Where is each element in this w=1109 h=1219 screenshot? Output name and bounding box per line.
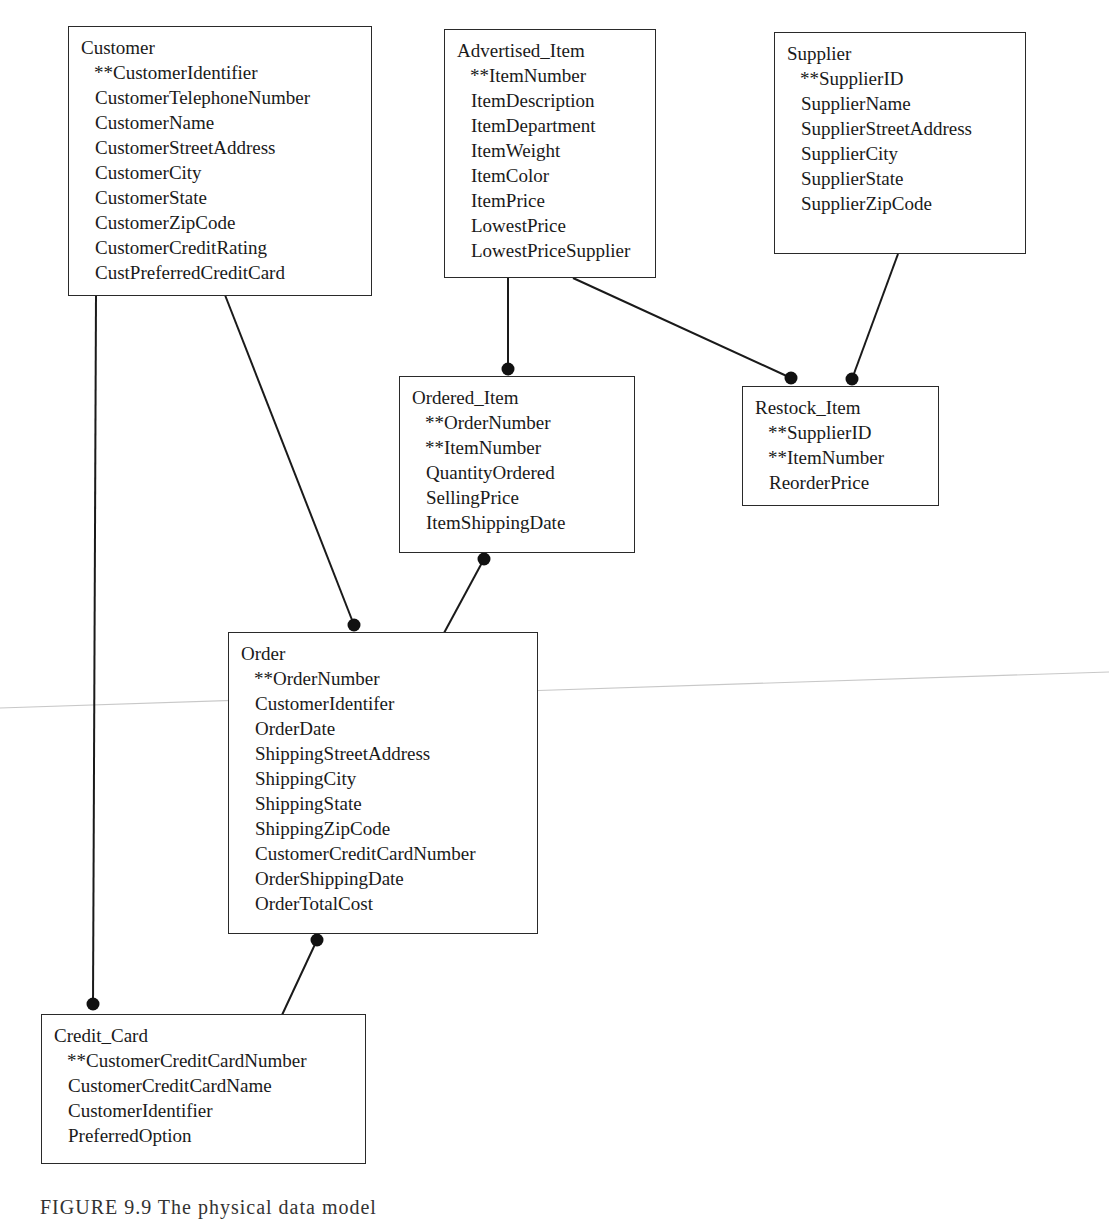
attribute: OrderDate bbox=[241, 716, 525, 741]
entity-supplier: Supplier **SupplierID SupplierName Suppl… bbox=[774, 32, 1026, 254]
attribute: ItemWeight bbox=[457, 138, 643, 163]
attribute: SellingPrice bbox=[412, 485, 622, 510]
many-dot-icon bbox=[478, 553, 491, 566]
entity-title: Advertised_Item bbox=[457, 38, 643, 63]
primary-key-attribute: **SupplierID bbox=[787, 66, 1013, 91]
attribute: CustomerStreetAddress bbox=[81, 135, 359, 160]
entity-advertised-item: Advertised_Item **ItemNumber ItemDescrip… bbox=[444, 29, 656, 278]
entity-title: Customer bbox=[81, 35, 359, 60]
attribute: CustomerIdentifier bbox=[54, 1098, 353, 1123]
rel-advertised-restock-item bbox=[573, 278, 798, 385]
attribute: ShippingStreetAddress bbox=[241, 741, 525, 766]
attribute: PreferredOption bbox=[54, 1123, 353, 1148]
attribute: LowestPriceSupplier bbox=[457, 238, 643, 263]
attribute: OrderTotalCost bbox=[241, 891, 525, 916]
many-dot-icon bbox=[502, 363, 515, 376]
entity-customer: Customer **CustomerIdentifier CustomerTe… bbox=[68, 26, 372, 296]
primary-key-attribute: **OrderNumber bbox=[412, 410, 622, 435]
many-dot-icon bbox=[846, 373, 859, 386]
attribute: ItemDepartment bbox=[457, 113, 643, 138]
scan-artifact-line bbox=[0, 672, 1109, 708]
primary-key-attribute: **SupplierID bbox=[755, 420, 926, 445]
attribute: OrderShippingDate bbox=[241, 866, 525, 891]
many-dot-icon bbox=[785, 372, 798, 385]
many-dot-icon bbox=[87, 998, 100, 1011]
attribute: ItemColor bbox=[457, 163, 643, 188]
primary-key-attribute: **CustomerIdentifier bbox=[81, 60, 359, 85]
primary-key-attribute: **CustomerCreditCardNumber bbox=[54, 1048, 353, 1073]
attribute: SupplierName bbox=[787, 91, 1013, 116]
attribute: CustPreferredCreditCard bbox=[81, 260, 359, 285]
primary-key-attribute: **OrderNumber bbox=[241, 666, 525, 691]
entity-title: Credit_Card bbox=[54, 1023, 353, 1048]
rel-customer-order bbox=[225, 295, 361, 632]
attribute: SupplierCity bbox=[787, 141, 1013, 166]
primary-key-attribute: **ItemNumber bbox=[412, 435, 622, 460]
rel-supplier-restock-item bbox=[846, 254, 899, 386]
attribute: CustomerName bbox=[81, 110, 359, 135]
attribute: CustomerCreditRating bbox=[81, 235, 359, 260]
entity-title: Restock_Item bbox=[755, 395, 926, 420]
attribute: CustomerState bbox=[81, 185, 359, 210]
entity-title: Order bbox=[241, 641, 525, 666]
attribute: ShippingState bbox=[241, 791, 525, 816]
attribute: SupplierStreetAddress bbox=[787, 116, 1013, 141]
attribute: ReorderPrice bbox=[755, 470, 926, 495]
figure-caption: FIGURE 9.9 The physical data model bbox=[40, 1196, 377, 1219]
attribute: ItemDescription bbox=[457, 88, 643, 113]
primary-key-attribute: **ItemNumber bbox=[755, 445, 926, 470]
attribute: CustomerIdentifer bbox=[241, 691, 525, 716]
attribute: CustomerCreditCardNumber bbox=[241, 841, 525, 866]
attribute: ItemShippingDate bbox=[412, 510, 622, 535]
attribute: CustomerTelephoneNumber bbox=[81, 85, 359, 110]
attribute: LowestPrice bbox=[457, 213, 643, 238]
entity-title: Supplier bbox=[787, 41, 1013, 66]
attribute: ShippingZipCode bbox=[241, 816, 525, 841]
rel-advertised-ordered-item bbox=[502, 277, 515, 376]
attribute: CustomerCity bbox=[81, 160, 359, 185]
attribute: QuantityOrdered bbox=[412, 460, 622, 485]
rel-credit-card-order bbox=[282, 934, 324, 1016]
entity-order: Order **OrderNumber CustomerIdentifer Or… bbox=[228, 632, 538, 934]
rel-customer-credit-card bbox=[87, 295, 100, 1011]
entity-ordered-item: Ordered_Item **OrderNumber **ItemNumber … bbox=[399, 376, 635, 553]
attribute: ItemPrice bbox=[457, 188, 643, 213]
attribute: CustomerZipCode bbox=[81, 210, 359, 235]
entity-restock-item: Restock_Item **SupplierID **ItemNumber R… bbox=[742, 386, 939, 506]
attribute: ShippingCity bbox=[241, 766, 525, 791]
entity-credit-card: Credit_Card **CustomerCreditCardNumber C… bbox=[41, 1014, 366, 1164]
rel-order-ordered-item bbox=[444, 553, 491, 634]
attribute: SupplierState bbox=[787, 166, 1013, 191]
attribute: CustomerCreditCardName bbox=[54, 1073, 353, 1098]
attribute: SupplierZipCode bbox=[787, 191, 1013, 216]
entity-title: Ordered_Item bbox=[412, 385, 622, 410]
many-dot-icon bbox=[311, 934, 324, 947]
primary-key-attribute: **ItemNumber bbox=[457, 63, 643, 88]
many-dot-icon bbox=[348, 619, 361, 632]
